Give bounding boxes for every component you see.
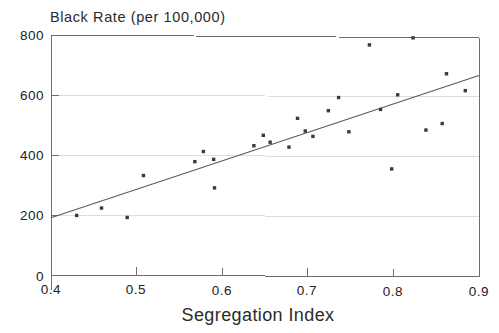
y-tick-label: 800 — [20, 28, 44, 43]
data-point — [296, 117, 299, 120]
x-tick-label: 0.4 — [41, 282, 61, 297]
y-tick-label: 600 — [20, 88, 44, 103]
data-point — [464, 89, 467, 92]
data-point — [368, 43, 371, 46]
data-point — [390, 167, 393, 170]
data-point — [379, 108, 382, 111]
data-point — [262, 134, 265, 137]
data-point — [202, 150, 205, 153]
x-axis-title: Segregation Index — [182, 305, 335, 325]
x-tick-labels: 0.4 0.5 0.6 0.7 0.8 0.9 — [41, 282, 489, 299]
x-tick-label: 0.6 — [212, 283, 232, 298]
data-point — [100, 206, 103, 209]
data-point — [445, 72, 448, 75]
data-point — [327, 109, 330, 112]
x-tick-label: 0.7 — [297, 283, 317, 298]
plot-frame — [51, 35, 479, 290]
data-point — [311, 135, 314, 138]
data-point — [424, 128, 427, 131]
data-point — [212, 158, 215, 161]
data-point — [268, 141, 271, 144]
x-tick-label: 0.9 — [469, 284, 489, 299]
data-point — [142, 174, 145, 177]
scatter-plot-figure: Black Rate (per 100,000) — [0, 0, 499, 333]
y-tick-marks — [51, 35, 59, 215]
data-point — [411, 36, 414, 39]
data-point — [440, 122, 443, 125]
data-point — [347, 130, 350, 133]
y-tick-labels: 800 600 400 200 0 — [20, 28, 44, 284]
grid-lines — [51, 95, 479, 217]
data-point — [396, 93, 399, 96]
y-tick-label: 200 — [20, 208, 44, 223]
data-points — [75, 36, 467, 219]
data-point — [125, 216, 128, 219]
x-tick-label: 0.8 — [383, 284, 403, 299]
y-axis-title: Black Rate (per 100,000) — [50, 9, 226, 25]
data-point — [193, 160, 196, 163]
y-tick-label: 400 — [20, 148, 44, 163]
chart-canvas: Black Rate (per 100,000) — [0, 0, 499, 333]
data-point — [337, 96, 340, 99]
data-point — [287, 145, 290, 148]
data-point — [75, 214, 78, 217]
data-point — [213, 186, 216, 189]
data-point — [304, 129, 307, 132]
data-point — [252, 144, 255, 147]
x-tick-label: 0.5 — [126, 282, 146, 297]
regression-line — [51, 75, 479, 217]
